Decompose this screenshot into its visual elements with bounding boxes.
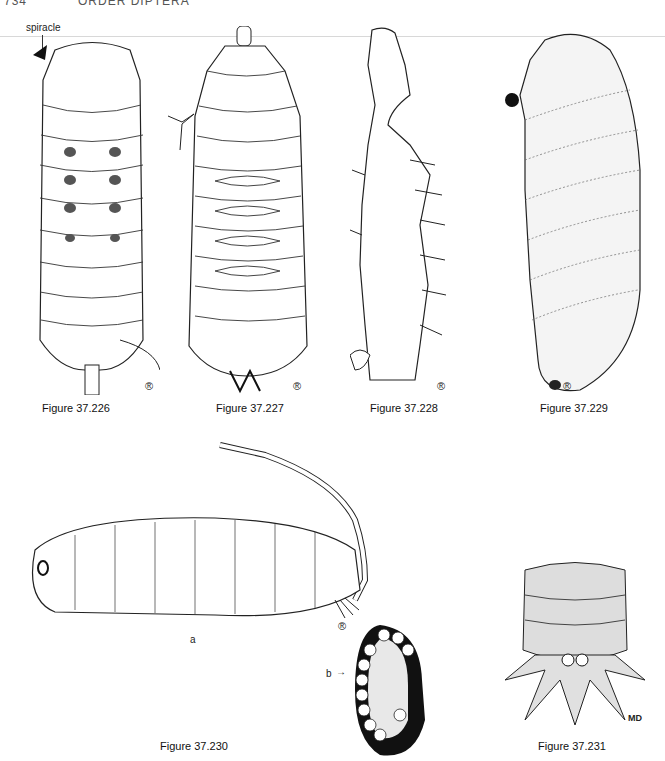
part-b-arrow: → [336,666,346,677]
figure-37-230-caption: Figure 37.230 [160,740,228,752]
copyright-mark: ® [437,380,445,392]
figure-37-230b-illustration [350,620,430,760]
part-a-label: a [190,634,196,645]
artist-initials: MD [628,713,642,723]
page-number: 734 [4,0,27,8]
figure-37-226-caption: Figure 37.226 [42,402,110,414]
running-title: ORDER DIPTERA [78,0,190,8]
figure-37-226-illustration [25,40,160,395]
spine-detail-inset [166,112,196,152]
figure-37-230a-illustration [15,440,415,620]
spiracle-label: spiracle [26,22,60,33]
figure-37-227-caption: Figure 37.227 [216,402,284,414]
part-b-label: b [326,668,332,679]
copyright-mark: ® [293,380,301,392]
copyright-mark: ® [563,380,571,392]
figure-37-227-illustration [185,26,310,396]
figure-37-231-illustration [505,560,645,730]
copyright-mark: ® [145,380,153,392]
figure-37-229-illustration [500,30,650,400]
figure-37-231-caption: Figure 37.231 [538,740,606,752]
copyright-mark: ® [338,620,346,632]
figure-37-228-illustration [350,25,450,385]
figure-37-229-caption: Figure 37.229 [540,402,608,414]
figure-37-228-caption: Figure 37.228 [370,402,438,414]
